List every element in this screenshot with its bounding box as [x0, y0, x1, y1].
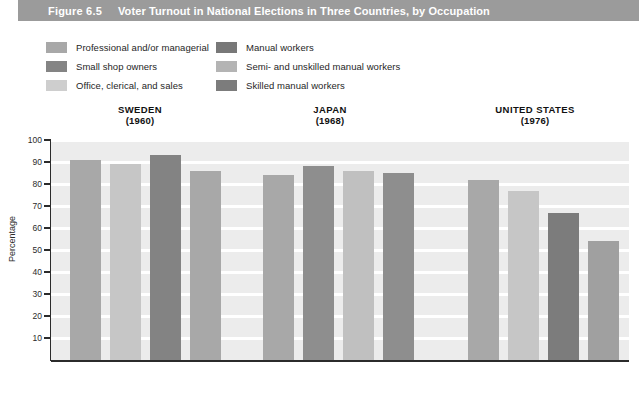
figure-number: Figure 6.5: [48, 5, 102, 17]
legend-swatch-professional-managerial: [46, 42, 67, 53]
bar: [150, 155, 181, 360]
legend-swatch-small-shop-owners: [46, 61, 67, 72]
bar: [263, 175, 294, 360]
y-tick-label-10: 10: [16, 333, 42, 343]
bar: [383, 173, 414, 360]
legend-swatch-manual-workers: [216, 42, 237, 53]
legend-label-skilled-manual-workers: Skilled manual workers: [246, 80, 345, 91]
bar: [190, 171, 221, 360]
legend-swatch-office-clerical-sales: [46, 80, 67, 91]
legend-column-left: Professional and/or managerial Small sho…: [46, 38, 209, 95]
legend-item-semi-unskilled-manual-workers: Semi- and unskilled manual workers: [216, 57, 400, 75]
legend-column-right: Manual workers Semi- and unskilled manua…: [216, 38, 400, 95]
legend-item-manual-workers: Manual workers: [216, 38, 400, 56]
x-axis-baseline: [51, 360, 629, 362]
y-tick-label-60: 60: [16, 223, 42, 233]
group-header-united-states-name: UNITED STATES: [455, 104, 615, 115]
y-tick-label-100: 100: [16, 135, 42, 145]
y-tick-mark-40: [44, 271, 51, 273]
group-header-japan-year: (1968): [280, 115, 380, 126]
chart-legend: Professional and/or managerial Small sho…: [46, 38, 526, 94]
group-header-sweden: SWEDEN (1960): [90, 104, 190, 126]
y-tick-label-80: 80: [16, 179, 42, 189]
y-axis-title: Percentage: [7, 194, 17, 284]
group-header-japan: JAPAN (1968): [280, 104, 380, 126]
y-tick-mark-90: [44, 161, 51, 163]
gridline-100: [51, 140, 629, 142]
legend-label-manual-workers: Manual workers: [246, 42, 314, 53]
bar: [468, 180, 499, 360]
y-tick-mark-70: [44, 205, 51, 207]
legend-label-small-shop-owners: Small shop owners: [76, 61, 157, 72]
y-tick-label-90: 90: [16, 157, 42, 167]
bar: [110, 164, 141, 360]
figure-title: Voter Turnout in National Elections in T…: [118, 5, 490, 17]
group-header-united-states-year: (1976): [455, 115, 615, 126]
legend-label-office-clerical-sales: Office, clerical, and sales: [76, 80, 183, 91]
group-header-sweden-name: SWEDEN: [90, 104, 190, 115]
legend-item-professional-managerial: Professional and/or managerial: [46, 38, 209, 56]
group-header-japan-name: JAPAN: [280, 104, 380, 115]
legend-swatch-skilled-manual-workers: [216, 80, 237, 91]
figure-title-bar: Figure 6.5 Voter Turnout in National Ele…: [18, 0, 639, 21]
bar: [303, 166, 334, 360]
group-header-sweden-year: (1960): [90, 115, 190, 126]
y-tick-label-20: 20: [16, 311, 42, 321]
y-tick-mark-20: [44, 315, 51, 317]
y-tick-label-70: 70: [16, 201, 42, 211]
y-tick-mark-80: [44, 183, 51, 185]
y-tick-label-30: 30: [16, 289, 42, 299]
legend-swatch-semi-unskilled-manual-workers: [216, 61, 237, 72]
chart-plot-wrapper: 100908070605040302010 Percentage: [0, 130, 639, 393]
bar: [343, 171, 374, 360]
bar: [588, 241, 619, 360]
group-header-united-states: UNITED STATES (1976): [455, 104, 615, 126]
plot-area: [51, 140, 629, 360]
bar: [548, 213, 579, 360]
y-tick-mark-100: [44, 139, 51, 141]
y-tick-label-50: 50: [16, 245, 42, 255]
legend-label-semi-unskilled-manual-workers: Semi- and unskilled manual workers: [246, 61, 400, 72]
legend-item-small-shop-owners: Small shop owners: [46, 57, 209, 75]
legend-item-skilled-manual-workers: Skilled manual workers: [216, 76, 400, 94]
legend-label-professional-managerial: Professional and/or managerial: [76, 42, 209, 53]
y-tick-label-40: 40: [16, 267, 42, 277]
bar: [70, 160, 101, 360]
y-tick-mark-50: [44, 249, 51, 251]
y-tick-mark-30: [44, 293, 51, 295]
legend-item-office-clerical-sales: Office, clerical, and sales: [46, 76, 209, 94]
bar: [508, 191, 539, 360]
y-tick-mark-10: [44, 337, 51, 339]
y-tick-mark-60: [44, 227, 51, 229]
gridline-90: [51, 161, 629, 164]
